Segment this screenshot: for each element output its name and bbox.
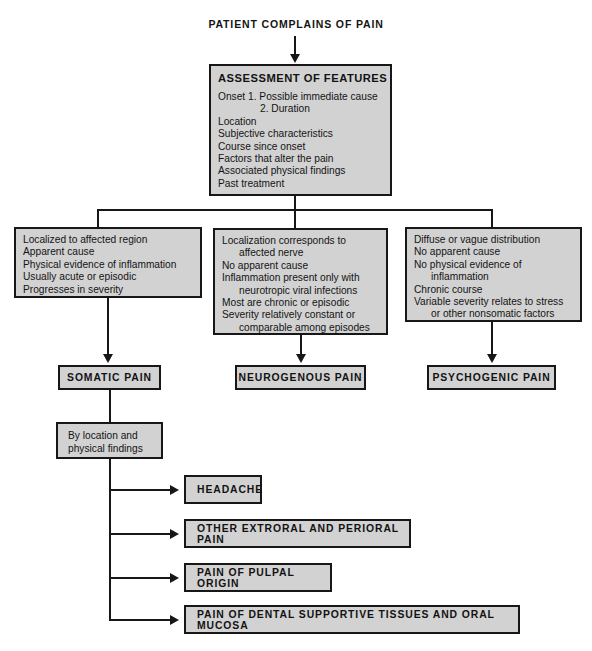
arrowhead-outcome-3 xyxy=(170,615,179,625)
psychogenic-criteria-box: Diffuse or vague distribution No apparen… xyxy=(405,227,582,322)
assessment-line-1: 2. Duration xyxy=(218,103,390,115)
neurogenous-criteria-line-4: neurotropic viral infections xyxy=(222,285,386,297)
outcome-box-dental-supportive-tissues: PAIN OF DENTAL SUPPORTIVE TISSUES AND OR… xyxy=(184,605,520,634)
connector-assessment-to-bus xyxy=(294,196,296,210)
psychogenic-criteria-line-4: Chronic course xyxy=(414,284,580,296)
arrowhead-outcome-1 xyxy=(170,529,179,539)
neurogenous-criteria-line-3: Inflammation present only with xyxy=(222,272,386,284)
psychogenic-criteria-line-6: or other nonsomatic factors xyxy=(414,308,580,320)
arrowhead-neurogenous-result xyxy=(296,354,306,363)
somatic-criteria-line-1: Apparent cause xyxy=(23,246,200,258)
neurogenous-criteria-line-1: affected nerve xyxy=(222,247,386,259)
somatic-criteria-line-3: Usually acute or episodic xyxy=(23,271,200,283)
psychogenic-criteria-lines: Diffuse or vague distribution No apparen… xyxy=(407,229,580,326)
subdivision-label-line2: physical findings xyxy=(68,443,161,456)
assessment-heading: ASSESSMENT OF FEATURES xyxy=(211,66,390,86)
connector-bus-to-neurogenous-criteria xyxy=(294,209,296,228)
neurogenous-criteria-box: Localization corresponds to affected ner… xyxy=(213,228,388,335)
somatic-criteria-lines: Localized to affected region Apparent ca… xyxy=(16,229,200,301)
psychogenic-criteria-line-1: No apparent cause xyxy=(414,246,580,258)
connector-somatic-to-subdivision xyxy=(109,390,111,422)
assessment-line-4: Course since onset xyxy=(218,141,390,153)
somatic-criteria-line-2: Physical evidence of inflammation xyxy=(23,259,200,271)
assessment-lines: Onset 1. Possible immediate cause 2. Dur… xyxy=(211,86,390,195)
neurogenous-criteria-line-0: Localization corresponds to xyxy=(222,235,386,247)
connector-bus-to-psychogenic-criteria xyxy=(491,209,493,227)
neurogenous-criteria-line-5: Most are chronic or episodic xyxy=(222,297,386,309)
neurogenous-criteria-line-6: Severity relatively constant or xyxy=(222,309,386,321)
outcome-box-pulpal-origin: PAIN OF PULPAL ORIGIN xyxy=(184,563,332,592)
connector-outcome-0 xyxy=(109,489,172,491)
page-title: PATIENT COMPLAINS OF PAIN xyxy=(0,18,592,30)
connector-bus-to-somatic-criteria xyxy=(97,209,99,227)
psychogenic-criteria-line-2: No physical evidence of xyxy=(414,259,580,271)
result-box-somatic: SOMATIC PAIN xyxy=(58,365,161,390)
arrowhead-psychogenic-result xyxy=(487,354,497,363)
assessment-line-2: Location xyxy=(218,116,390,128)
connector-outcome-1 xyxy=(109,533,172,535)
subdivision-label-line1: By location and xyxy=(68,430,161,443)
assessment-line-5: Factors that alter the pain xyxy=(218,153,390,165)
subdivision-box: By location and physical findings xyxy=(56,422,163,459)
neurogenous-criteria-lines: Localization corresponds to affected ner… xyxy=(215,230,386,339)
flowchart-canvas: PATIENT COMPLAINS OF PAIN ASSESSMENT OF … xyxy=(0,0,592,651)
neurogenous-criteria-line-2: No apparent cause xyxy=(222,260,386,272)
psychogenic-criteria-line-5: Variable severity relates to stress xyxy=(414,296,580,308)
psychogenic-criteria-line-3: inflammation xyxy=(414,271,580,283)
outcome-box-headache: HEADACHE xyxy=(184,475,262,504)
result-box-neurogenous: NEUROGENOUS PAIN xyxy=(235,365,366,390)
assessment-line-6: Associated physical findings xyxy=(218,165,390,177)
somatic-criteria-line-4: Progresses in severity xyxy=(23,284,200,296)
somatic-criteria-box: Localized to affected region Apparent ca… xyxy=(14,227,202,298)
connector-somatic-criteria-to-result xyxy=(107,298,109,357)
result-box-psychogenic: PSYCHOGENIC PAIN xyxy=(427,365,556,390)
connector-outcome-3 xyxy=(109,619,172,621)
neurogenous-criteria-line-7: comparable among episodes xyxy=(222,322,386,334)
arrowhead-title-to-assessment xyxy=(290,54,300,63)
arrowhead-outcome-0 xyxy=(170,485,179,495)
connector-outcome-2 xyxy=(109,577,172,579)
assessment-line-7: Past treatment xyxy=(218,178,390,190)
assessment-line-3: Subjective characteristics xyxy=(218,128,390,140)
outcome-box-extroral-perioral: OTHER EXTRORAL AND PERIORAL PAIN xyxy=(184,519,411,548)
connector-psychogenic-criteria-to-result xyxy=(491,322,493,357)
assessment-line-0: Onset 1. Possible immediate cause xyxy=(218,91,390,103)
somatic-criteria-line-0: Localized to affected region xyxy=(23,234,200,246)
psychogenic-criteria-line-0: Diffuse or vague distribution xyxy=(414,234,580,246)
arrowhead-outcome-2 xyxy=(170,573,179,583)
outcome-spine xyxy=(109,459,111,621)
assessment-box: ASSESSMENT OF FEATURES Onset 1. Possible… xyxy=(209,64,392,196)
arrowhead-somatic-result xyxy=(103,354,113,363)
